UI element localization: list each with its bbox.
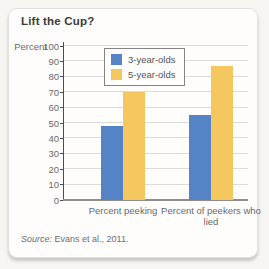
source-prefix: Source: [21,234,52,244]
y-tick-label: 50 [33,118,59,129]
legend-item-3-year-olds: 3-year-olds [111,54,176,65]
y-tick-mark [60,169,63,170]
x-category-label-percent-of-peekers-who-lied: Percent of peekers who lied [159,205,263,227]
bar-5-year-olds-lied [211,66,233,200]
y-tick-mark [60,46,63,47]
y-tick-label: 20 [33,164,59,175]
legend-swatch-blue [111,54,122,65]
y-tick-mark [60,107,63,108]
y-tick-mark [60,123,63,124]
y-tick-label: 70 [33,87,59,98]
y-tick-label: 90 [33,56,59,67]
y-tick-mark [60,92,63,93]
legend-item-5-year-olds: 5-year-olds [111,69,176,80]
y-tick-mark [60,61,63,62]
y-tick-label: 40 [33,133,59,144]
y-tick-mark [60,184,63,185]
legend-label: 5-year-olds [128,69,176,80]
x-category-label-percent-peeking: Percent peeking [73,205,173,216]
y-tick-mark [60,138,63,139]
legend-label: 3-year-olds [128,54,176,65]
figure-title: Lift the Cup? [21,15,95,27]
chart-legend: 3-year-olds 5-year-olds [104,48,185,86]
y-tick-label: 10 [33,179,59,190]
y-tick-label: 0 [33,195,59,206]
y-axis-line [63,42,64,200]
source-text: Evans et al., 2011. [55,234,129,244]
figure-card: Lift the Cup? Percent 3-year-olds 5-year… [8,8,258,258]
legend-swatch-yellow [111,69,122,80]
source-note: Source: Evans et al., 2011. [21,234,128,244]
y-tick-label: 100 [33,41,59,52]
bar-3-year-olds-peeking [101,126,123,200]
bar-5-year-olds-peeking [123,92,145,200]
y-tick-label: 80 [33,71,59,82]
y-tick-label: 30 [33,148,59,159]
gridline [64,45,248,46]
y-tick-mark [60,153,63,154]
y-tick-mark [60,76,63,77]
y-tick-label: 60 [33,102,59,113]
bar-3-year-olds-lied [189,115,211,200]
y-tick-mark [60,200,63,201]
plot-area: 3-year-olds 5-year-olds [63,46,248,200]
